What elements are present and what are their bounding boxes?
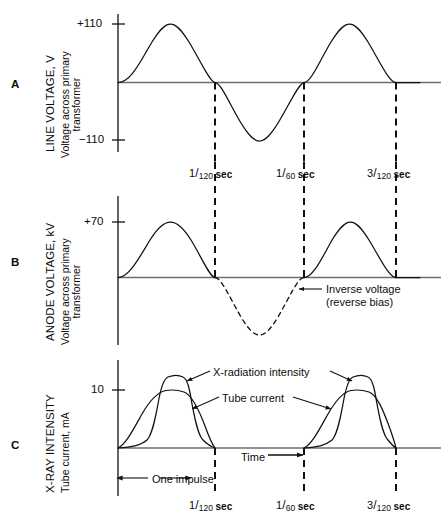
panel-c-tube-current-pulse-1 xyxy=(118,390,215,448)
panel-c-x-radiation-pulse-1 xyxy=(118,376,215,449)
panel-a-plot xyxy=(112,14,441,162)
panel-b-anode-voltage-pulse-2 xyxy=(304,222,420,278)
panel-c-x-radiation-pulse-2 xyxy=(304,376,396,449)
x-radiation-leader-left xyxy=(187,371,210,381)
panel-c-tube-current-pulse-2 xyxy=(304,390,396,448)
x-radiation-leader-right xyxy=(330,371,352,381)
tube-current-leader-right xyxy=(293,397,331,409)
panel-b-anode-voltage-pulse-1 xyxy=(118,222,215,278)
tube-current-leader-left xyxy=(192,397,219,409)
xray-waveform-figure: A B C LINE VOLTAGE, V Voltage across pri… xyxy=(0,0,445,523)
waveform-vector-layer xyxy=(0,0,445,523)
panel-c-plot xyxy=(112,360,441,496)
panel-b-plot xyxy=(112,162,441,345)
panel-b-inverse-voltage-curve xyxy=(215,278,304,336)
